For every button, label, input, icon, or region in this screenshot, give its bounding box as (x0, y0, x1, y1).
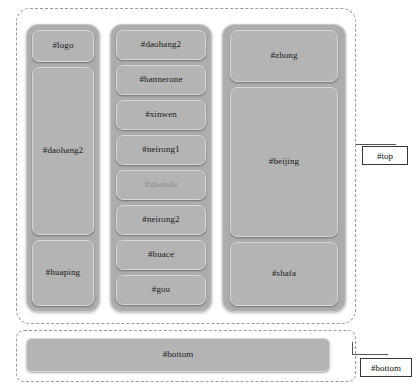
card-daohang2-left[interactable]: #daohang2 (32, 67, 94, 235)
card-xinwen[interactable]: #xinwen (116, 100, 206, 130)
card-neirong1[interactable]: #neirong1 (116, 135, 206, 165)
callout-bottom: #bottom (360, 358, 412, 377)
card-bottom[interactable]: #bottom (26, 338, 330, 372)
card-logo[interactable]: #logo (32, 30, 94, 62)
bottom-callout-leader-line (352, 354, 388, 355)
diagram-canvas: #logo #daohang2 #huaping #daohang2 #bann… (0, 0, 416, 391)
card-zhanshi[interactable]: #zhanshi (116, 170, 206, 200)
callout-top: #top (362, 146, 408, 165)
card-huaping[interactable]: #huaping (32, 240, 94, 306)
card-huace[interactable]: #huace (116, 240, 206, 270)
card-zhong[interactable]: #zhong (230, 30, 338, 82)
top-callout-leader-line (356, 144, 396, 145)
card-beijing[interactable]: #beijing (230, 87, 338, 237)
card-neirong2[interactable]: #neirong2 (116, 205, 206, 235)
card-bannerone[interactable]: #bannerone (116, 65, 206, 95)
card-gou[interactable]: #gou (116, 275, 206, 305)
card-daohang2-middle[interactable]: #daohang2 (116, 30, 206, 60)
card-shafa[interactable]: #shafa (230, 242, 338, 306)
